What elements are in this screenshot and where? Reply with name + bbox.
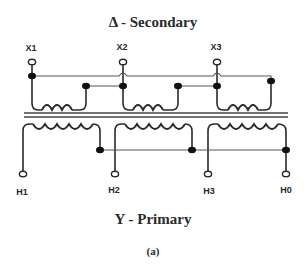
terminal-h3 xyxy=(204,171,211,177)
transformer-core xyxy=(24,113,288,117)
terminal-x3 xyxy=(213,59,220,65)
junction-dot xyxy=(174,83,182,89)
junction-dot xyxy=(28,73,36,79)
terminal-label-x2: X2 xyxy=(116,42,127,52)
junction-dot xyxy=(119,83,127,89)
secondary-winding-group xyxy=(28,59,275,110)
terminal-x2 xyxy=(119,59,126,65)
terminal-label-h0: H0 xyxy=(280,185,292,195)
secondary-title: Δ - Secondary xyxy=(109,14,198,30)
terminal-label-h2: H2 xyxy=(108,185,120,195)
neutral-junction-dot xyxy=(96,147,104,153)
primary-winding-group xyxy=(19,124,290,177)
junction-dot xyxy=(267,78,275,84)
terminal-x1 xyxy=(28,59,35,65)
terminal-h1 xyxy=(19,171,26,177)
junction-dot xyxy=(213,83,221,89)
neutral-junction-dot xyxy=(282,147,290,153)
terminal-label-x3: X3 xyxy=(210,42,221,52)
terminal-label-h1: H1 xyxy=(16,187,28,197)
neutral-junction-dot xyxy=(188,147,196,153)
transformer-wiring-diagram: Δ - Secondary Y - Primary (a) X1 X2 X3 xyxy=(0,0,307,273)
figure-caption: (a) xyxy=(147,245,160,258)
terminal-h2 xyxy=(111,171,118,177)
primary-title: Y - Primary xyxy=(115,211,192,227)
terminal-label-h3: H3 xyxy=(203,186,215,196)
junction-dot xyxy=(82,83,90,89)
terminal-h0 xyxy=(282,171,289,177)
terminal-label-x1: X1 xyxy=(25,43,36,53)
